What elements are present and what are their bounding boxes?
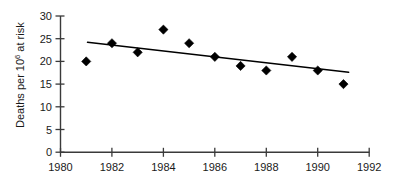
x-tick-label-1992: 1992 [357,161,381,173]
svg-text:Deaths per 106 at risk: Deaths per 106 at risk [13,22,26,128]
chart-container: Deaths per 106 at risk 30 25 20 15 10 5 … [0,0,403,186]
data-point-marker [236,61,245,70]
data-point-marker [339,80,348,89]
data-point-marker [107,39,116,48]
y-axis-tick-labels: 30 25 20 15 10 5 0 [40,10,52,158]
y-axis-title-suffix: at risk [14,22,26,55]
y-tick-label-20: 20 [40,55,52,67]
x-axis-tick-labels: 1980 1982 1984 1986 1988 1990 1992 [48,161,381,173]
scatter-plot: Deaths per 106 at risk 30 25 20 15 10 5 … [0,0,403,186]
x-tick-label-1982: 1982 [100,161,124,173]
x-tick-label-1988: 1988 [254,161,278,173]
y-axis-title: Deaths per 106 at risk [13,22,26,128]
x-tick-label-1986: 1986 [203,161,227,173]
data-point-marker [287,52,296,61]
y-tick-label-15: 15 [40,78,52,90]
data-point-marker [82,57,91,66]
y-axis-title-main: Deaths per 10 [14,59,26,128]
data-point-marker [262,66,271,75]
y-tick-label-5: 5 [46,124,52,136]
x-tick-label-1990: 1990 [305,161,329,173]
data-point-marker [159,25,168,34]
x-tick-label-1980: 1980 [48,161,72,173]
y-tick-label-0: 0 [46,146,52,158]
data-point-marker [313,66,322,75]
y-tick-label-25: 25 [40,33,52,45]
data-point-markers [82,25,348,89]
x-tick-label-1984: 1984 [151,161,175,173]
data-point-marker [185,39,194,48]
y-tick-label-10: 10 [40,101,52,113]
y-tick-label-30: 30 [40,10,52,22]
data-point-marker [210,52,219,61]
